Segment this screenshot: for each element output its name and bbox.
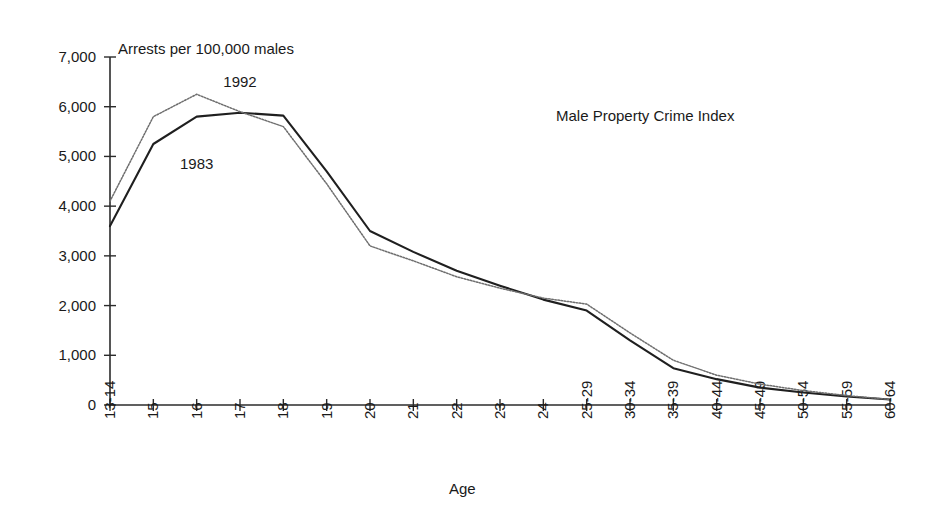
y-tick-label: 2,000 <box>58 297 96 314</box>
x-tick-label: 20 <box>361 402 378 419</box>
series-annotation-1992: 1992 <box>223 73 256 90</box>
y-axis-tick-labels: 01,0002,0003,0004,0005,0006,0007,000 <box>58 48 96 413</box>
x-tick-label: 21 <box>404 402 421 419</box>
x-tick-label: 40-44 <box>708 381 725 419</box>
y-tick-label: 4,000 <box>58 197 96 214</box>
x-tick-label: 50-54 <box>794 381 811 419</box>
series-annotation-1983: 1983 <box>180 155 213 172</box>
x-tick-label: 35-39 <box>664 381 681 419</box>
chart-title: Male Property Crime Index <box>556 107 735 124</box>
x-tick-label: 17 <box>231 402 248 419</box>
x-tick-label: 22 <box>448 402 465 419</box>
series-line-1983 <box>110 113 890 400</box>
x-tick-label: 25-29 <box>578 381 595 419</box>
x-tick-label: 24 <box>534 402 551 419</box>
y-tick-label: 1,000 <box>58 346 96 363</box>
y-tick-label: 5,000 <box>58 147 96 164</box>
y-axis-unit-label: Arrests per 100,000 males <box>118 40 294 57</box>
x-tick-label: 15 <box>144 402 161 419</box>
x-tick-label: 19 <box>318 402 335 419</box>
y-tick-label: 3,000 <box>58 247 96 264</box>
x-tick-label: 16 <box>188 402 205 419</box>
y-tick-label: 7,000 <box>58 48 96 65</box>
x-tick-label: 23 <box>491 402 508 419</box>
line-chart: 01,0002,0003,0004,0005,0006,0007,000 13-… <box>0 0 928 516</box>
series-line-1992 <box>110 94 890 399</box>
x-tick-label: 13-14 <box>101 381 118 419</box>
y-tick-label: 0 <box>88 396 96 413</box>
chart-container: 01,0002,0003,0004,0005,0006,0007,000 13-… <box>0 0 928 516</box>
x-tick-label: 30-34 <box>621 381 638 419</box>
y-tick-label: 6,000 <box>58 98 96 115</box>
x-tick-label: 55-59 <box>838 381 855 419</box>
x-tick-label: 18 <box>274 402 291 419</box>
x-axis-title: Age <box>449 480 476 497</box>
